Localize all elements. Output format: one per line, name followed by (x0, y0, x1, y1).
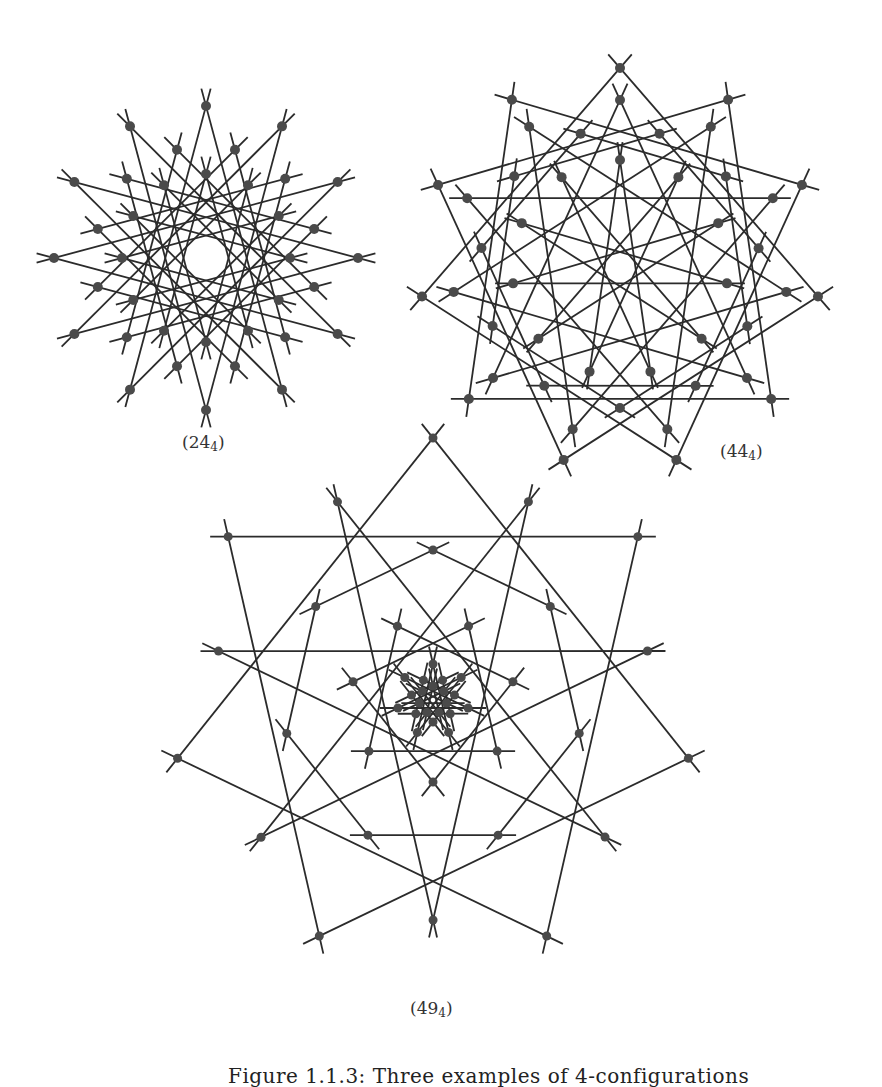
configuration-point (230, 361, 240, 371)
configuration-point (662, 424, 672, 434)
configuration-point (575, 729, 584, 738)
configuration-point (713, 218, 723, 228)
configuration-point (645, 367, 655, 377)
configuration-point (122, 332, 132, 342)
configuration-point (125, 385, 135, 395)
configuration-point (655, 129, 665, 139)
configuration-point (462, 193, 472, 203)
configuration-point (419, 676, 428, 685)
configuration-point (509, 171, 519, 181)
configuration-line (587, 142, 623, 389)
configuration-point (159, 326, 169, 336)
configuration-point (797, 180, 807, 190)
configuration-point (633, 532, 642, 541)
configuration-point (464, 394, 474, 404)
configuration-line (365, 609, 402, 769)
configuration-point (422, 708, 431, 717)
configuration-24-4 (37, 89, 376, 428)
configuration-line (466, 82, 514, 417)
configuration-point (224, 532, 233, 541)
configuration-point (172, 145, 182, 155)
configuration-point (315, 932, 324, 941)
label-24-4: (244) (182, 432, 225, 454)
configuration-point (559, 455, 569, 465)
configuration-point (691, 381, 701, 391)
configuration-point (274, 211, 284, 221)
configuration-point (413, 728, 422, 737)
configuration-point (533, 334, 543, 344)
configuration-point (159, 180, 169, 190)
configuration-point (393, 704, 402, 713)
configuration-point (429, 682, 438, 691)
configuration-point (781, 287, 791, 297)
configuration-point (615, 95, 625, 105)
configuration-point (201, 337, 211, 347)
configuration-point (349, 677, 358, 686)
configuration-line (439, 117, 726, 302)
configuration-point (766, 394, 776, 404)
configuration-point (309, 224, 319, 234)
configuration-point (274, 295, 284, 305)
configuration-line (465, 609, 502, 769)
configuration-line (726, 82, 774, 417)
configuration-point (418, 687, 427, 696)
configuration-point (615, 63, 625, 73)
configuration-point (539, 381, 549, 391)
configuration-point (488, 321, 498, 331)
configuration-point (524, 122, 534, 132)
configuration-point (128, 295, 138, 305)
configuration-point (243, 180, 253, 190)
configuration-point (417, 291, 427, 301)
configuration-point (429, 660, 438, 669)
configuration-point (311, 602, 320, 611)
configuration-point (333, 497, 342, 506)
configuration-line (561, 185, 785, 443)
configuration-point (429, 546, 438, 555)
configuration-point (433, 180, 443, 190)
configuration-point (742, 373, 752, 383)
configuration-point (508, 278, 518, 288)
configuration-point (615, 403, 625, 413)
configuration-point (201, 405, 211, 415)
configuration-point (435, 708, 444, 717)
configuration-point (122, 174, 132, 184)
configuration-point (93, 224, 103, 234)
configuration-point (742, 321, 752, 331)
configuration-point (201, 169, 211, 179)
configuration-line (224, 519, 323, 954)
configuration-point (438, 676, 447, 685)
configuration-point (93, 282, 103, 292)
configuration-line (407, 287, 692, 470)
configuration-line (250, 488, 540, 852)
configuration-point (407, 691, 416, 700)
configuration-point (446, 709, 455, 718)
configuration-point (277, 121, 287, 131)
configuration-point (364, 747, 373, 756)
configuration-line (605, 317, 763, 418)
configuration-point (507, 95, 517, 105)
figure-caption: Figure 1.1.3: Three examples of 4-config… (228, 1064, 749, 1087)
configuration-point (768, 193, 778, 203)
configuration-point (723, 95, 733, 105)
configuration-line (202, 643, 621, 845)
configuration-point (201, 101, 211, 111)
configuration-point (524, 497, 533, 506)
configuration-point (576, 129, 586, 139)
configuration-line (166, 424, 444, 772)
configuration-point (464, 622, 473, 631)
configuration-point (243, 326, 253, 336)
configuration-point (69, 329, 79, 339)
configuration-point (464, 704, 473, 713)
configuration-line (617, 142, 653, 389)
configuration-point (393, 622, 402, 631)
configuration-point (476, 243, 486, 253)
configuration-point (214, 647, 223, 656)
configuration-point (429, 916, 438, 925)
configuration-point (601, 833, 610, 842)
configuration-point (722, 278, 732, 288)
configuration-point (673, 172, 683, 182)
configuration-point (697, 334, 707, 344)
configuration-point (257, 833, 266, 842)
configuration-point (282, 729, 291, 738)
configuration-49-4 (161, 424, 704, 954)
